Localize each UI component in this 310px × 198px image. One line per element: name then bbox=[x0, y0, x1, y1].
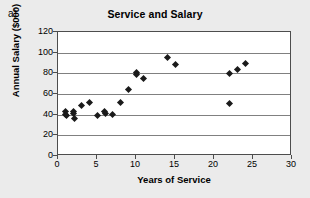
y-tick-label: 80 bbox=[27, 67, 53, 77]
y-tick-label: 120 bbox=[27, 26, 53, 36]
x-tick-label: 15 bbox=[159, 159, 189, 169]
x-axis-tick-labels: 051015202530 bbox=[57, 159, 291, 171]
data-point bbox=[117, 99, 124, 106]
y-tick-label: 100 bbox=[27, 47, 53, 57]
data-point bbox=[171, 60, 178, 67]
data-point bbox=[93, 112, 100, 119]
y-tick-label: 60 bbox=[27, 88, 53, 98]
data-point bbox=[234, 66, 241, 73]
data-point bbox=[140, 75, 147, 82]
y-tick-label: 40 bbox=[27, 109, 53, 119]
data-point bbox=[226, 70, 233, 77]
x-tick-label: 30 bbox=[276, 159, 306, 169]
x-tick-label: 5 bbox=[81, 159, 111, 169]
y-axis-tick-labels: 020406080100120 bbox=[25, 31, 53, 155]
data-point bbox=[125, 86, 132, 93]
chart-figure: a) Service and Salary Annual Salary ($00… bbox=[0, 0, 310, 198]
data-point bbox=[164, 54, 171, 61]
x-tick-label: 25 bbox=[237, 159, 267, 169]
data-point bbox=[109, 111, 116, 118]
y-axis-title: Annual Salary ($000) bbox=[10, 0, 21, 113]
data-point bbox=[78, 102, 85, 109]
plot-area bbox=[57, 31, 291, 155]
x-tick-label: 20 bbox=[198, 159, 228, 169]
data-point bbox=[242, 59, 249, 66]
chart-title: Service and Salary bbox=[0, 8, 310, 20]
data-point bbox=[71, 115, 78, 122]
x-tick-label: 10 bbox=[120, 159, 150, 169]
x-axis-title: Years of Service bbox=[57, 174, 291, 185]
x-tick-label: 0 bbox=[42, 159, 72, 169]
y-tick-label: 20 bbox=[27, 129, 53, 139]
data-point bbox=[226, 100, 233, 107]
data-point bbox=[86, 99, 93, 106]
scatter-points bbox=[58, 32, 290, 154]
